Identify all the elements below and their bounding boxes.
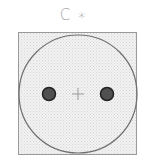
pin-left <box>43 88 56 101</box>
plug-socket-icon <box>0 0 147 165</box>
pin-right <box>101 88 114 101</box>
